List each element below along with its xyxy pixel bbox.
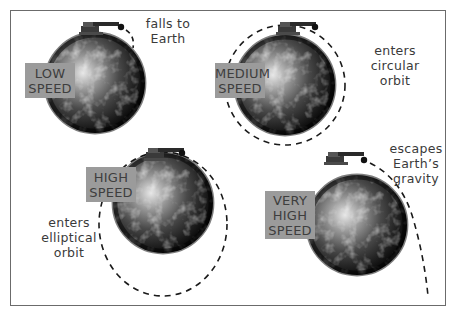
outcome-caption-very-high: escapes Earth’s gravity: [384, 141, 448, 186]
label-line: SPEED: [86, 185, 136, 200]
caption-line: orbit: [365, 73, 425, 88]
label-line: SPEED: [25, 81, 75, 96]
outcome-caption-low: falls to Earth: [138, 16, 198, 46]
label-line: VERY: [265, 193, 315, 208]
label-line: MEDIUM: [215, 66, 265, 81]
cannonball-icon: [312, 24, 318, 30]
cannon-icon: [324, 152, 364, 165]
outcome-caption-high: enters elliptical orbit: [38, 215, 100, 260]
cannon-icon: [276, 22, 316, 35]
caption-line: circular: [365, 58, 425, 73]
label-line: HIGH: [86, 170, 136, 185]
caption-line: falls to: [138, 16, 198, 31]
caption-line: elliptical: [38, 230, 100, 245]
cannonball-icon: [179, 150, 185, 156]
speed-label-medium: MEDIUM SPEED: [215, 63, 265, 98]
label-line: LOW: [25, 66, 75, 81]
cannon-icon: [79, 22, 119, 35]
outcome-caption-medium: enters circular orbit: [365, 43, 425, 88]
caption-line: escapes: [384, 141, 448, 156]
label-line: SPEED: [215, 81, 265, 96]
caption-line: Earth’s: [384, 156, 448, 171]
caption-line: enters: [365, 43, 425, 58]
speed-label-very-high: VERY HIGH SPEED: [265, 191, 315, 239]
label-line: HIGH: [265, 208, 315, 223]
caption-line: gravity: [384, 171, 448, 186]
cannonball-icon: [361, 157, 367, 163]
speed-label-low: LOW SPEED: [25, 63, 75, 98]
label-line: SPEED: [265, 223, 315, 238]
speed-label-high: HIGH SPEED: [86, 167, 136, 202]
caption-line: enters: [38, 215, 100, 230]
cannonball-icon: [118, 24, 124, 30]
caption-line: Earth: [138, 31, 198, 46]
caption-line: orbit: [38, 245, 100, 260]
